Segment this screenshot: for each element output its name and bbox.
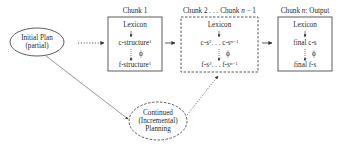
chunk1-f-structure: f-structure1 xyxy=(108,61,162,69)
chunk2-title: Chunk 2 . . . Chunk n − 1 xyxy=(176,7,263,15)
chunk1-title: Chunk 1 xyxy=(108,7,162,15)
chunkn-title-b: : Output xyxy=(305,7,329,15)
continued-planning-label: Continued (Incremental) Planning xyxy=(129,109,187,133)
initial-plan-label: Initial Plan (partial) xyxy=(10,34,64,50)
chunk1-phi: ϕ xyxy=(136,50,146,58)
chunk2-f-mid: . . . f-s xyxy=(211,61,229,69)
chunkn-final-f-s: final f-s xyxy=(278,61,332,69)
continued-line1: Continued xyxy=(129,109,187,117)
chunkn-final-c-s: final c-s xyxy=(278,39,332,47)
chunk2-c-sup2: n−1 xyxy=(231,39,239,44)
chunk2-c-structure: c-s2. . . c-sn−1 xyxy=(181,39,258,47)
chunk2-c-a: c-s xyxy=(201,39,209,47)
chunkn-title: Chunk n: Output xyxy=(272,7,338,15)
chunk1-f-sup: 1 xyxy=(149,61,152,66)
chunk2-f-sup2: n−1 xyxy=(230,61,238,66)
chunk2-title-a: Chunk 2 . . . Chunk xyxy=(183,7,241,15)
chunk1-f-text: f-structure xyxy=(119,61,149,69)
chunk2-f-structure: f-s2. . . f-sn−1 xyxy=(181,61,258,69)
chunk1-c-sup: 1 xyxy=(149,39,152,44)
continued-line2: (Incremental) xyxy=(129,117,187,125)
chunk2-title-b: − 1 xyxy=(245,7,256,15)
chunk1-c-structure: c-structure1 xyxy=(108,39,162,47)
initial-plan-line2: (partial) xyxy=(10,42,64,50)
chunk2-c-mid: . . . c-s xyxy=(211,39,230,47)
chunkn-title-a: Chunk xyxy=(281,7,302,15)
continued-line3: Planning xyxy=(129,125,187,133)
initial-plan-line1: Initial Plan xyxy=(10,34,64,42)
dotted-arrow-continued-to-chunk2 xyxy=(187,76,218,115)
chunk2-phi: ϕ xyxy=(223,50,233,58)
chunkn-lexicon: Lexicon xyxy=(278,21,332,29)
chunk1-lexicon: Lexicon xyxy=(108,21,162,29)
chunk2-f-a: f-s xyxy=(201,61,209,69)
chunk1-c-text: c-structure xyxy=(118,39,149,47)
chunkn-phi: ϕ xyxy=(309,50,319,58)
chunk2-lexicon: Lexicon xyxy=(181,21,258,29)
